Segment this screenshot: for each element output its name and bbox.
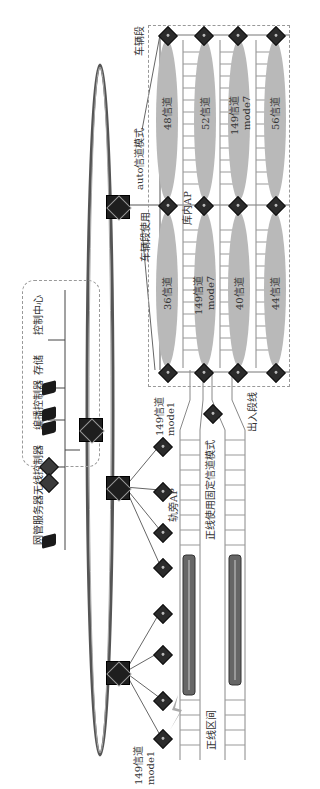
channel-label: 52信道 [200, 97, 211, 130]
channel-label: 48信道 [162, 97, 173, 130]
trackside-channel-top: 149信道 [154, 397, 165, 436]
depot-use-label: 车辆段使用 [140, 212, 151, 262]
trackside-switch-icon [106, 661, 130, 685]
exit-line-label: 出入段线 [247, 392, 258, 432]
trackside-mode-bottom: mode1 [145, 751, 156, 785]
mode-label: mode7 [205, 276, 216, 310]
mode-label: mode7 [241, 96, 252, 130]
trackside-ap-label: 轨旁AP [168, 488, 179, 522]
depot-ap-label: 库内AP [182, 191, 193, 225]
trackside-channel-bottom: 149信道 [133, 746, 144, 785]
channel-label: 44信道 [270, 277, 281, 310]
core-switch-icon [79, 418, 103, 442]
storage-label: 存储 [33, 355, 44, 375]
channel-label: 36信道 [162, 277, 173, 310]
channel-label: 56信道 [270, 97, 281, 130]
channel-label: 40信道 [234, 277, 245, 310]
depot-switch-icon [106, 195, 130, 219]
trackside-switch-icon [106, 476, 130, 500]
depot-section-label: 车辆段 [134, 26, 145, 56]
control-center-label: 控制中心 [33, 295, 44, 335]
trackside-mode-top: mode1 [165, 402, 176, 436]
auto-mode-label: auto信道模式 [134, 128, 145, 190]
channel-label: 149信道 [229, 96, 240, 135]
fixed-channel-mode-label: 正线使用固定信道模式 [205, 440, 216, 540]
channel-label: 149信道 [193, 276, 204, 315]
mainline-section-label: 正线区间 [206, 710, 217, 750]
